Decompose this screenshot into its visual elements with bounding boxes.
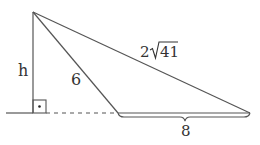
side-2-sqrt-41 [33, 12, 250, 113]
base-brace [118, 113, 250, 121]
label-h: h [18, 61, 28, 80]
label-long-coef: 2 [140, 43, 150, 61]
label-2-sqrt-41: 2 41 [140, 42, 179, 61]
label-8: 8 [181, 122, 191, 140]
label-long-radicand: 41 [160, 43, 179, 61]
right-angle-dot [38, 105, 41, 108]
triangle-diagram: h 6 2 41 8 [0, 0, 260, 145]
label-6: 6 [71, 70, 81, 89]
side-6 [33, 12, 118, 113]
